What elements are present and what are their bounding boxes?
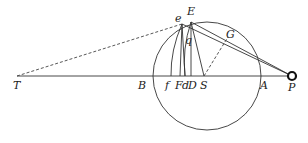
point-label-f: f — [164, 79, 171, 92]
line-ES — [191, 22, 204, 76]
curve-Ed — [184, 22, 191, 76]
point-label-q: q — [185, 34, 192, 47]
point-label-S: S — [200, 79, 208, 92]
point-label-E: E — [186, 5, 195, 18]
point-label-G: G — [226, 28, 235, 41]
line-EP — [191, 22, 292, 76]
dashed-line-Te — [17, 24, 182, 76]
body-marker-icon — [288, 72, 296, 80]
geometry-diagram: TBfFdDSAPeEqG — [0, 0, 308, 143]
point-label-B: B — [137, 79, 146, 92]
point-label-D: D — [187, 79, 197, 92]
point-label-A: A — [259, 79, 268, 92]
dashed-line-SG — [204, 37, 228, 76]
line-eF — [180, 24, 182, 76]
point-label-P: P — [287, 81, 296, 94]
point-label-T: T — [13, 79, 22, 92]
line-eP — [182, 24, 292, 76]
point-label-e: e — [175, 12, 182, 25]
